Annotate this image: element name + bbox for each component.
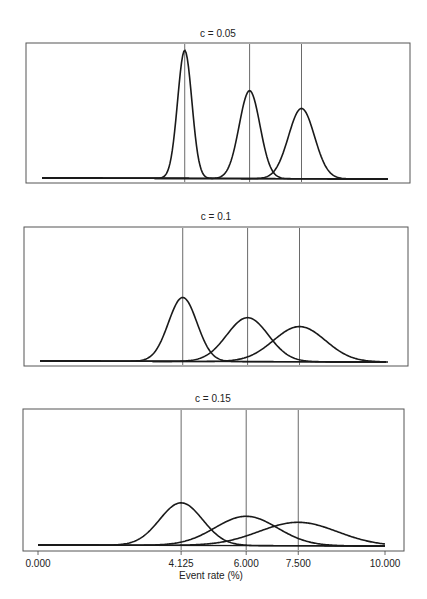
figure: c = 0.05 c = 0.1 c = 0.15 0.0004.1256.00…: [0, 0, 427, 599]
x-axis-ticks: 0.0004.1256.0007.50010.000: [25, 551, 400, 569]
density-curve: [40, 298, 386, 363]
density-curve: [38, 522, 385, 545]
density-curve: [38, 516, 385, 546]
density-curves: [40, 298, 388, 363]
x-tick-label: 7.500: [286, 558, 311, 569]
panel-title: c = 0.15: [195, 393, 231, 404]
density-curve: [42, 91, 388, 179]
x-tick-label: 10.000: [370, 558, 401, 569]
density-curves: [42, 51, 388, 179]
plot-frame: [23, 409, 404, 551]
x-axis-label: Event rate (%): [179, 570, 243, 581]
x-tick-label: 4.125: [169, 558, 194, 569]
panel-c-0.15: c = 0.15 0.0004.1256.0007.50010.000 Even…: [23, 393, 404, 581]
x-tick-label: 0.000: [25, 558, 50, 569]
reference-lines: [183, 228, 300, 365]
density-curves: [38, 503, 385, 546]
density-curve: [42, 51, 388, 179]
density-curve: [38, 503, 385, 546]
x-tick-label: 6.000: [234, 558, 259, 569]
plot-frame: [26, 43, 410, 183]
panel-title: c = 0.1: [201, 211, 232, 222]
density-curve: [42, 108, 388, 179]
panel-title: c = 0.05: [200, 28, 236, 39]
panel-c-0.05: c = 0.05: [26, 28, 410, 183]
plot-frame: [24, 227, 408, 366]
density-curve: [40, 327, 386, 362]
reference-lines: [185, 44, 302, 182]
panel-c-0.1: c = 0.1: [24, 211, 408, 366]
